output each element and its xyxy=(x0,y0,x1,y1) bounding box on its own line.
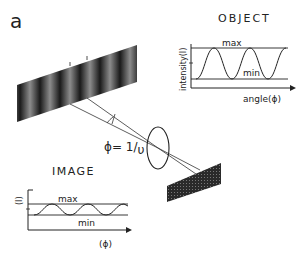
object-max-label: max xyxy=(222,38,242,48)
image-y-label: (I) xyxy=(15,196,24,205)
object-x-label: angle(ϕ) xyxy=(243,94,281,104)
light-rays xyxy=(70,98,200,174)
image-chart: IMAGE max min (ϕ) (I) xyxy=(15,165,132,249)
image-min-label: min xyxy=(78,218,95,228)
object-min-label: min xyxy=(243,68,260,78)
angle-formula: ϕ= 1/υ xyxy=(104,140,144,157)
image-grating xyxy=(167,163,221,202)
object-chart: OBJECT max min angle(ϕ) intensity(I) xyxy=(179,12,296,104)
object-y-label: intensity(I) xyxy=(179,48,188,91)
panel-label: a xyxy=(10,9,22,33)
object-title: OBJECT xyxy=(218,12,271,25)
image-max-label: max xyxy=(58,194,78,204)
object-grating xyxy=(17,45,137,122)
diagram-canvas: a ϕ= 1/υ OBJECT max min angle(ϕ) intensi… xyxy=(0,0,306,259)
image-x-label: (ϕ) xyxy=(99,239,112,249)
image-title: IMAGE xyxy=(52,165,95,178)
